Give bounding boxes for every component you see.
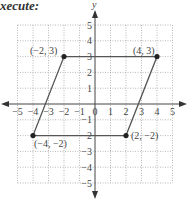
point-marker	[61, 54, 66, 59]
x-axis-left-arrow-icon	[1, 101, 9, 107]
point-marker	[154, 54, 159, 59]
y-tick-label: 2	[87, 67, 92, 78]
coordinate-plane: y−5−4−3−2−1012345−5−4−3−2−112345(−2, 3)(…	[0, 0, 189, 201]
x-tick-label: 5	[170, 106, 175, 117]
point-label: (−4, −2)	[34, 138, 67, 150]
x-tick-label: 2	[124, 106, 129, 117]
x-axis-right-arrow-icon	[179, 101, 187, 107]
y-tick-label: −1	[81, 114, 92, 125]
x-tick-label: 1	[108, 106, 113, 117]
y-tick-label: 1	[87, 83, 92, 94]
point-marker	[123, 133, 128, 138]
x-tick-label: −3	[43, 106, 54, 117]
y-axis-down-arrow-icon	[92, 191, 98, 199]
x-tick-label: −4	[28, 106, 39, 117]
y-tick-label: −5	[81, 178, 92, 189]
y-tick-label: −3	[81, 146, 92, 157]
y-tick-label: 4	[87, 35, 92, 46]
x-tick-label: −2	[59, 106, 70, 117]
x-tick-label: 0	[93, 106, 98, 117]
x-tick-label: 4	[155, 106, 160, 117]
x-tick-label: 3	[139, 106, 144, 117]
y-axis-label: y	[91, 0, 97, 10]
point-label: (−2, 3)	[30, 45, 57, 57]
x-tick-label: −5	[12, 106, 23, 117]
y-tick-label: 5	[87, 20, 92, 31]
y-tick-label: −4	[81, 162, 92, 173]
point-label: (2, −2)	[131, 130, 158, 142]
y-axis-up-arrow-icon	[92, 10, 98, 18]
point-label: (4, 3)	[133, 45, 155, 57]
